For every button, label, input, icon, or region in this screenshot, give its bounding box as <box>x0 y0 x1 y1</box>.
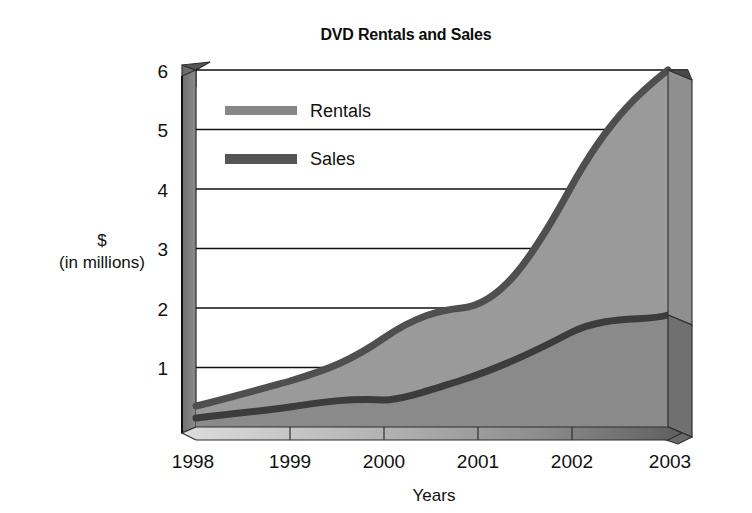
chart-container: DVD Rentals and Sales <box>0 0 752 513</box>
legend-label-rentals: Rentals <box>310 101 371 121</box>
x-axis-title: Years <box>413 486 456 505</box>
y-axis-title-line2: (in millions) <box>59 253 145 272</box>
legend-item-sales[interactable]: Sales <box>225 149 355 169</box>
y-axis-ticks: 6 5 4 3 2 1 <box>157 61 168 379</box>
x-tick-1999: 1999 <box>269 451 311 472</box>
legend-item-rentals[interactable]: Rentals <box>225 101 371 121</box>
legend-label-sales: Sales <box>310 149 355 169</box>
y-tick-4: 4 <box>157 180 168 201</box>
y-tick-3: 3 <box>157 239 168 260</box>
x-tick-2002: 2002 <box>551 451 593 472</box>
x-tick-2001: 2001 <box>457 451 499 472</box>
y-tick-6: 6 <box>157 61 168 82</box>
plot-floor-strip <box>182 427 682 440</box>
chart-legend: Rentals Sales <box>225 101 371 169</box>
x-tick-2000: 2000 <box>363 451 405 472</box>
y-tick-5: 5 <box>157 120 168 141</box>
x-tick-1998: 1998 <box>172 451 214 472</box>
x-tick-2003: 2003 <box>649 451 691 472</box>
x-axis-ticks: 1998 1999 2000 2001 2002 2003 <box>172 451 691 472</box>
y-axis-title-line1: $ <box>97 231 107 250</box>
legend-swatch-icon-sales <box>225 154 297 164</box>
plot-left-wall <box>182 70 196 433</box>
chart-plot: 6 5 4 3 2 1 1998 1999 2000 2001 2002 200… <box>0 0 752 513</box>
y-tick-1: 1 <box>157 358 168 379</box>
legend-swatch-icon-rentals <box>225 106 297 115</box>
y-tick-2: 2 <box>157 299 168 320</box>
plot-right-depth-face <box>668 70 692 437</box>
